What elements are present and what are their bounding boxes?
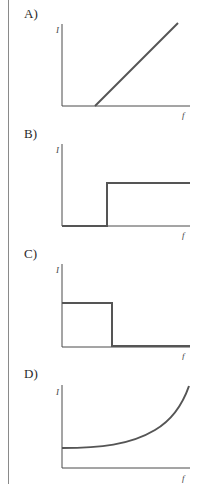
data-curve [62, 386, 189, 448]
y-axis-label: I [55, 25, 60, 35]
data-line [62, 183, 190, 226]
chart-panel-c: C) I f [0, 240, 214, 360]
x-axis-label: f [182, 110, 186, 120]
y-axis-label: I [55, 387, 60, 397]
chart-panel-b: B) I f [0, 120, 214, 240]
chart-d-plot: I f [0, 360, 214, 495]
chart-c-plot: I f [0, 240, 214, 360]
chart-panel-d: D) I f [0, 360, 214, 480]
chart-panel-a: A) I f [0, 0, 214, 120]
x-axis-label: f [182, 230, 186, 240]
x-axis-label: f [182, 473, 186, 483]
y-axis-label: I [55, 265, 60, 275]
y-axis-label: I [55, 145, 60, 155]
chart-a-plot: I f [0, 0, 214, 120]
data-line [95, 23, 178, 106]
data-line [62, 303, 190, 346]
x-axis-label: f [182, 351, 186, 360]
chart-b-plot: I f [0, 120, 214, 240]
